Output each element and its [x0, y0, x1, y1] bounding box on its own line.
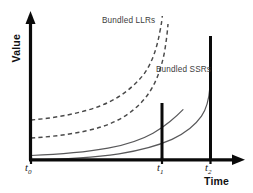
x-axis-title: Time — [204, 176, 229, 187]
curve-bundled-ssrs-to-t1 — [31, 110, 183, 156]
value-vs-time-figure: Bundled LLRs Bundled SSRs Value Time t0 … — [0, 0, 253, 193]
x-tick-label-t2-sub: 2 — [208, 168, 212, 176]
x-tick-label-t0: t0 — [25, 163, 31, 176]
y-axis-arrowhead-icon — [26, 11, 36, 24]
x-tick-label-t2: t2 — [205, 163, 211, 176]
x-axis-arrowhead-icon — [232, 155, 245, 165]
x-tick-label-t0-sub: 0 — [28, 168, 32, 176]
series-label-bundled-ssrs: Bundled SSRs — [156, 66, 211, 74]
curve-bundled-llrs-upper — [31, 16, 162, 120]
x-tick-label-t1-sub: 1 — [160, 168, 164, 176]
chart-canvas — [0, 0, 253, 193]
x-tick-label-t1: t1 — [157, 163, 163, 176]
series-label-bundled-llrs: Bundled LLRs — [102, 17, 155, 25]
y-axis-title: Value — [11, 20, 22, 76]
curve-bundled-llrs-lower — [31, 24, 168, 138]
